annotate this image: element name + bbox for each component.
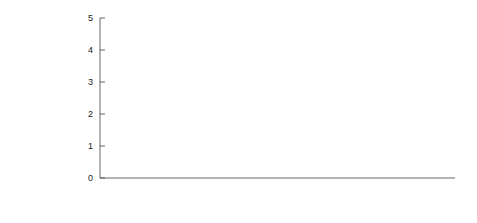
chart-canvas: 012345 — [0, 0, 477, 223]
ytick-label-gal-0: 0 — [88, 173, 93, 183]
ytick-label-gal-5: 5 — [88, 13, 93, 23]
main-axis-spines — [100, 18, 455, 178]
ytick-label-gal-2: 2 — [88, 109, 93, 119]
ytick-label-gal-3: 3 — [88, 77, 93, 87]
ytick-label-gal-1: 1 — [88, 141, 93, 151]
ytick-label-gal-4: 4 — [88, 45, 93, 55]
figure-airline-fuel-cost: 012345 — [0, 0, 477, 223]
